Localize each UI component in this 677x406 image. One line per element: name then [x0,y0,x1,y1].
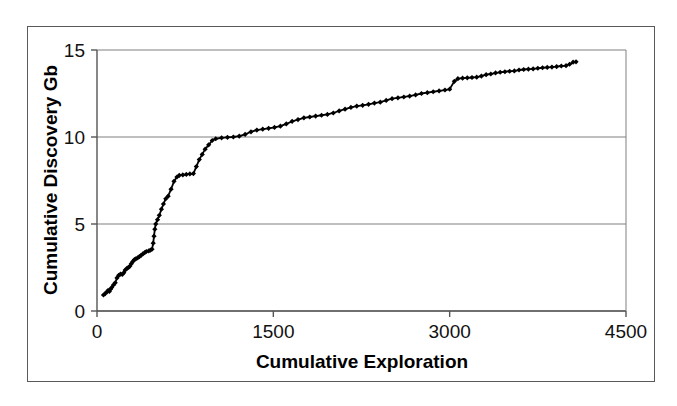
data-point-marker [301,115,306,120]
data-point-marker [360,103,365,108]
y-tick-label-15: 15 [64,40,85,61]
data-point-marker [436,88,441,93]
data-point-marker [354,103,359,108]
data-point-marker [159,207,164,212]
data-point-marker [331,110,336,115]
data-point-marker [531,66,536,71]
axis-lines [97,50,626,311]
data-point-marker [512,68,517,73]
chart-plot: 0510150150030004500 Cumulative Explorati… [0,0,677,406]
data-point-marker [290,119,295,124]
x-tick-label-4500: 4500 [605,321,647,342]
data-point-marker [425,90,430,95]
data-point-marker [507,69,512,74]
data-point-marker [168,187,173,192]
data-point-marker [545,65,550,70]
data-point-marker [161,201,166,206]
data-point-marker [372,100,377,105]
tick-labels: 0510150150030004500 [64,40,647,342]
series-line-cumulative-discovery [103,62,576,295]
data-point-marker [488,71,493,76]
data-point-marker [554,64,559,69]
data-point-marker [549,64,554,69]
data-point-marker [219,135,224,140]
data-point-marker [460,76,465,81]
data-point-marker [152,227,157,232]
x-axis-title: Cumulative Exploration [256,351,468,372]
data-point-marker [540,65,545,70]
x-tick-label-3000: 3000 [429,321,471,342]
x-tick-label-1500: 1500 [252,321,294,342]
data-point-marker [535,66,540,71]
data-point-marker [442,87,447,92]
data-point-marker [407,94,412,99]
data-point-marker [526,67,531,72]
data-point-marker [502,69,507,74]
data-point-marker [484,72,489,77]
data-point-marker [248,129,253,134]
data-point-marker [465,75,470,80]
data-point-marker [194,164,199,169]
data-point-marker [384,98,389,103]
data-point-marker [313,114,318,119]
data-point-marker [431,89,436,94]
data-point-marker [284,121,289,126]
tick-marks [91,50,626,317]
data-point-marker [498,70,503,75]
data-point-marker [559,63,564,68]
y-axis-title: Cumulative Discovery Gb [40,65,61,295]
data-point-marker [225,135,230,140]
data-point-marker [319,113,324,118]
data-point-marker [254,127,259,132]
data-point-marker [243,132,248,137]
data-point-marker [237,134,242,139]
y-tick-label-0: 0 [74,301,85,322]
data-point-marker [278,124,283,129]
data-point-marker [231,134,236,139]
data-point-marker [521,67,526,72]
data-point-marker [295,117,300,122]
data-point-marker [395,95,400,100]
data-point-marker [325,112,330,117]
data-point-marker [307,114,312,119]
data-point-marker [260,127,265,132]
data-point-marker [401,94,406,99]
grid-lines [97,50,626,311]
data-point-marker [191,171,196,176]
data-point-marker [366,102,371,107]
data-point-marker [469,75,474,80]
data-point-marker [493,70,498,75]
figure-root: 0510150150030004500 Cumulative Explorati… [0,0,677,406]
data-point-marker [479,74,484,79]
y-tick-label-5: 5 [74,214,85,235]
data-point-marker [474,75,479,80]
data-point-marker [342,107,347,112]
x-tick-label-0: 0 [92,321,103,342]
data-point-marker [337,108,342,113]
data-point-marker [151,234,156,239]
data-point-marker [413,92,418,97]
data-point-marker [151,241,156,246]
data-point-marker [378,100,383,105]
data-point-marker [516,67,521,72]
data-point-marker [419,91,424,96]
data-point-marker [348,105,353,110]
data-point-markers [101,59,579,297]
data-point-marker [389,96,394,101]
data-point-marker [272,125,277,130]
data-point-marker [266,126,271,131]
y-tick-label-10: 10 [64,127,85,148]
data-series-line [103,62,576,295]
